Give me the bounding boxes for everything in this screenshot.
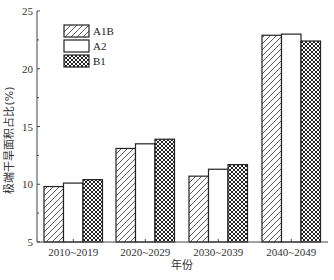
legend-swatch <box>64 40 89 52</box>
x-axis-title: 年份 <box>171 258 193 272</box>
x-tick-label: 2040~2049 <box>266 246 316 258</box>
legend-label: A1B <box>93 25 114 37</box>
y-tick-label: 5 <box>28 236 34 248</box>
bar-a1b <box>116 148 136 242</box>
bar-a2 <box>282 34 302 242</box>
x-axis: 2010~20192020~20292030~20392040~2049 <box>37 239 328 258</box>
x-tick-label: 2020~2029 <box>120 246 170 258</box>
bar-a1b <box>44 187 64 242</box>
x-tick-label: 2010~2019 <box>48 246 98 258</box>
y-tick-label: 20 <box>22 63 34 75</box>
legend-item-a1b: A1B <box>64 25 114 37</box>
legend-label: B1 <box>93 55 106 67</box>
bar-b1 <box>228 165 248 242</box>
y-tick-label: 15 <box>22 121 34 133</box>
bar-b1 <box>301 41 321 242</box>
bar-group <box>116 139 175 242</box>
bar-a2 <box>64 183 84 242</box>
bar-b1 <box>155 139 175 242</box>
bar-a2 <box>136 144 156 242</box>
bar-a1b <box>262 35 282 242</box>
y-axis-title: 极端干旱面积占比(%) <box>2 86 16 193</box>
y-tick-label: 10 <box>22 178 34 190</box>
bar-a2 <box>209 169 229 242</box>
bar-chart: 510152025 2010~20192020~20292030~2039204… <box>0 0 334 280</box>
legend-item-b1: B1 <box>64 55 106 67</box>
x-tick-label: 2030~2039 <box>193 246 243 258</box>
bar-group <box>44 180 103 242</box>
y-axis: 510152025 <box>22 5 40 248</box>
legend-label: A2 <box>93 40 106 52</box>
bar-b1 <box>83 180 103 242</box>
legend-swatch <box>64 55 89 67</box>
bar-group <box>189 165 248 242</box>
legend-item-a2: A2 <box>64 40 106 52</box>
legend-swatch <box>64 25 89 37</box>
legend: A1BA2B1 <box>64 25 114 67</box>
bar-a1b <box>189 176 209 242</box>
y-tick-label: 25 <box>22 5 34 17</box>
bar-group <box>262 34 321 242</box>
